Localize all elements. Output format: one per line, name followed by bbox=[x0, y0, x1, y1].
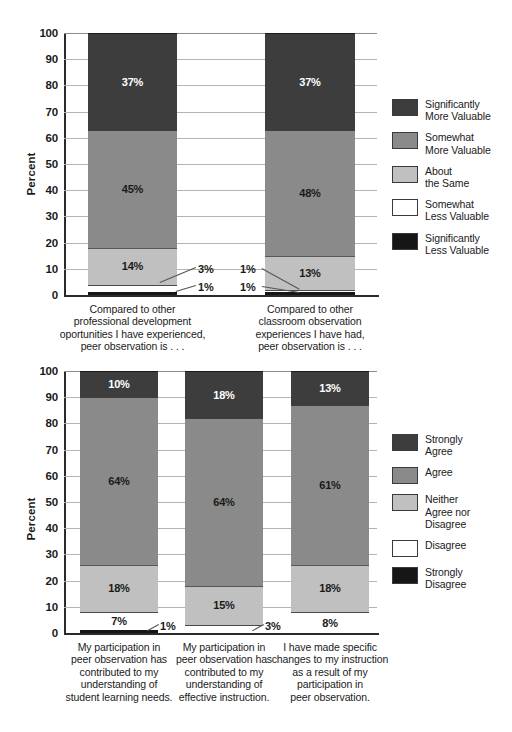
stacked-bar: 1%1%13%48%37% bbox=[265, 33, 355, 295]
stacked-bar: 8%18%61%13% bbox=[291, 371, 369, 633]
legend-swatch bbox=[392, 540, 418, 557]
y-axis-tick-label: 20 bbox=[18, 575, 58, 587]
y-axis-tick-label: 10 bbox=[18, 263, 58, 275]
legend-label: Neither Agree nor Disagree bbox=[425, 493, 470, 530]
legend-swatch bbox=[392, 99, 418, 116]
legend-item[interactable]: Somewhat More Valuable bbox=[392, 131, 510, 155]
y-axis-title-bottom: Percent bbox=[25, 484, 37, 554]
value-callout: 3% bbox=[198, 263, 220, 275]
plot-wrap-bottom: Percent 01020304050607080901001%7%18%64%… bbox=[0, 355, 512, 732]
legend-item[interactable]: Strongly Agree bbox=[392, 433, 510, 457]
y-axis-tick-label: 20 bbox=[18, 237, 58, 249]
legend-item[interactable]: Agree bbox=[392, 466, 510, 484]
segment-value-label: 8% bbox=[322, 618, 338, 629]
y-axis-tick-label: 10 bbox=[18, 601, 58, 613]
legend-item[interactable]: Neither Agree nor Disagree bbox=[392, 493, 510, 530]
legend-label: Significantly Less Valuable bbox=[425, 232, 489, 256]
legend-swatch bbox=[392, 567, 418, 584]
legend-label: Somewhat Less Valuable bbox=[425, 198, 489, 222]
bar-segment: 61% bbox=[291, 405, 369, 565]
y-axis-tick-label: 30 bbox=[18, 210, 58, 222]
legend-item[interactable]: Disagree bbox=[392, 539, 510, 557]
legend-swatch bbox=[392, 494, 418, 511]
legend-swatch bbox=[392, 233, 418, 250]
segment-value-label: 15% bbox=[213, 600, 234, 611]
y-axis-tick-label: 70 bbox=[18, 444, 58, 456]
bar-segment: 13% bbox=[265, 256, 355, 290]
legend-top: Significantly More ValuableSomewhat More… bbox=[392, 98, 510, 265]
bar-segment: 3% bbox=[185, 625, 263, 633]
segment-value-label: 64% bbox=[213, 497, 234, 508]
bar-segment: 13% bbox=[291, 371, 369, 405]
bar-segment: 10% bbox=[80, 371, 158, 397]
segment-value-label: 14% bbox=[122, 261, 143, 272]
segment-value-label: 18% bbox=[319, 583, 340, 594]
legend-swatch bbox=[392, 434, 418, 451]
segment-value-label: 10% bbox=[108, 379, 129, 390]
x-axis-category-label: Compared to otherclassroom observationex… bbox=[235, 303, 385, 353]
bar-segment: 1% bbox=[265, 290, 355, 293]
segment-value-label: 18% bbox=[213, 390, 234, 401]
bar-segment: 64% bbox=[185, 418, 263, 586]
x-axis-category-label: Compared to otherprofessional developmen… bbox=[58, 303, 208, 353]
value-callout: 1% bbox=[160, 620, 182, 632]
bar-segment: 1% bbox=[265, 292, 355, 295]
chart-agreement: Percent 01020304050607080901001%7%18%64%… bbox=[0, 355, 512, 732]
x-axis-category-label: My participation inpeer observation hasc… bbox=[60, 641, 178, 703]
legend-item[interactable]: About the Same bbox=[392, 165, 510, 189]
legend-label: Significantly More Valuable bbox=[425, 98, 491, 122]
segment-value-label: 37% bbox=[122, 77, 143, 88]
legend-item[interactable]: Significantly More Valuable bbox=[392, 98, 510, 122]
value-callout: 3% bbox=[265, 620, 287, 632]
legend-item[interactable]: Strongly Disagree bbox=[392, 566, 510, 590]
bar-segment: 1% bbox=[88, 292, 177, 295]
legend-swatch bbox=[392, 467, 418, 484]
value-callout: 1% bbox=[198, 281, 220, 293]
segment-value-label: 13% bbox=[299, 268, 320, 279]
y-axis-tick-label: 60 bbox=[18, 470, 58, 482]
chart-value-comparison: Percent 01020304050607080901001%3%14%45%… bbox=[0, 0, 512, 366]
y-axis-tick-label: 0 bbox=[18, 627, 58, 639]
bar-segment: 48% bbox=[265, 130, 355, 256]
bar-segment: 3% bbox=[88, 285, 177, 293]
bar-segment: 45% bbox=[88, 130, 177, 248]
segment-value-label: 64% bbox=[108, 476, 129, 487]
segment-value-label: 48% bbox=[299, 188, 320, 199]
legend-label: Agree bbox=[425, 466, 453, 478]
y-axis-tick-label: 80 bbox=[18, 417, 58, 429]
legend-bottom: Strongly AgreeAgreeNeither Agree nor Dis… bbox=[392, 433, 510, 599]
segment-value-label: 45% bbox=[122, 184, 143, 195]
bar-segment: 7% bbox=[80, 612, 158, 630]
y-axis-tick-label: 0 bbox=[18, 289, 58, 301]
stacked-bar: 1%3%14%45%37% bbox=[88, 33, 177, 295]
bar-segment: 37% bbox=[88, 33, 177, 130]
legend-item[interactable]: Somewhat Less Valuable bbox=[392, 198, 510, 222]
y-axis-tick-label: 90 bbox=[18, 53, 58, 65]
legend-label: Disagree bbox=[425, 539, 466, 551]
y-axis-title-top: Percent bbox=[25, 139, 37, 209]
segment-value-label: 61% bbox=[319, 480, 340, 491]
legend-label: Somewhat More Valuable bbox=[425, 131, 491, 155]
legend-swatch bbox=[392, 199, 418, 216]
y-axis-tick-label: 80 bbox=[18, 79, 58, 91]
legend-label: About the Same bbox=[425, 165, 469, 189]
bar-segment: 8% bbox=[291, 612, 369, 633]
bar-segment: 64% bbox=[80, 397, 158, 565]
y-axis-tick-label: 100 bbox=[18, 365, 58, 377]
legend-label: Strongly Disagree bbox=[425, 566, 466, 590]
bar-segment: 1% bbox=[80, 630, 158, 633]
stacked-bar: 1%7%18%64%10% bbox=[80, 371, 158, 633]
bar-segment: 18% bbox=[185, 371, 263, 418]
x-axis-category-label: My participation inpeer observation hasc… bbox=[165, 641, 283, 703]
y-axis-tick-label: 100 bbox=[18, 27, 58, 39]
y-axis-tick-label: 40 bbox=[18, 522, 58, 534]
segment-value-label: 13% bbox=[319, 383, 340, 394]
stacked-bar: 3%15%64%18% bbox=[185, 371, 263, 633]
legend-item[interactable]: Significantly Less Valuable bbox=[392, 232, 510, 256]
bar-segment: 18% bbox=[291, 565, 369, 612]
y-axis-tick-label: 70 bbox=[18, 106, 58, 118]
bar-segment: 18% bbox=[80, 565, 158, 612]
value-callout: 1% bbox=[240, 263, 262, 275]
x-axis-category-label: I have made specificchanges to my instru… bbox=[271, 641, 389, 703]
legend-swatch bbox=[392, 166, 418, 183]
